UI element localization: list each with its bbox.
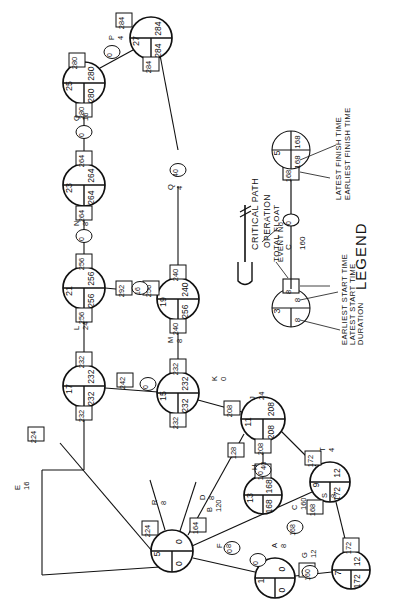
operation-duration-C: 160 <box>299 497 308 510</box>
legend-label-duration: DURATION <box>356 302 365 345</box>
duration-value: 0 <box>252 561 259 565</box>
duration-oval: 16 <box>132 282 148 295</box>
float-box: 172 <box>343 538 359 554</box>
operation-duration-P: 4 <box>116 36 125 40</box>
legend-operation-duration: 160 <box>298 237 307 250</box>
event-id-21: 21 <box>64 286 74 296</box>
earliest-7: 12 <box>353 556 363 566</box>
latest-17: 232 <box>87 391 97 405</box>
event-node-7[interactable]: 712172 <box>332 551 370 589</box>
operation-name-O: O <box>72 115 81 121</box>
operation-duration-T: 4 <box>327 448 336 452</box>
operation-name-T: T <box>318 447 327 452</box>
event-id-1: 1 <box>256 578 266 583</box>
operation-duration-S: 8 <box>329 494 338 498</box>
operation-name-S: S <box>320 493 329 498</box>
float-value: 208 <box>225 405 234 418</box>
duration-value: 0 <box>78 133 85 137</box>
operation-duration-N: 8 <box>81 222 90 226</box>
float-box: 172 <box>305 451 321 467</box>
latest-7: 172 <box>353 574 363 588</box>
event-node-5[interactable]: 500 <box>151 530 193 572</box>
float-box: 232 <box>170 359 186 375</box>
operation-name-G: G <box>300 552 309 558</box>
operation-name-R: R <box>150 500 159 505</box>
legend-float-val-left: 8 <box>284 290 293 294</box>
edge-5-up-c <box>60 443 152 551</box>
float-value: 232 <box>77 356 86 369</box>
event-node-19[interactable]: 19240256 <box>157 278 199 320</box>
float-value: 224 <box>29 431 38 444</box>
event-id-15: 15 <box>158 391 168 401</box>
float-box: 256 <box>76 254 92 270</box>
duration-oval: 0 <box>76 126 92 139</box>
legend-critical-arrow <box>238 262 252 285</box>
operation-duration-J: 24 <box>257 392 266 400</box>
latest-5: 0 <box>175 561 185 566</box>
edge-5-1 <box>193 558 255 572</box>
float-value: 232 <box>171 417 180 430</box>
legend-earliest-3: 8 <box>293 297 302 302</box>
edge-27-down <box>160 55 178 150</box>
legend-latest-3: 8 <box>293 317 302 322</box>
float-box: 224 <box>28 427 44 443</box>
float-box: 284 <box>116 13 132 29</box>
operation-duration-H: 40 <box>259 462 268 470</box>
float-value: 292 <box>117 285 126 298</box>
legend-heading: LEGEND <box>352 222 369 290</box>
float-value: 264 <box>77 155 86 168</box>
float-value: 224 <box>143 525 152 538</box>
operation-duration-F: 8 <box>224 544 233 548</box>
event-node-21[interactable]: 21256256 <box>63 267 105 309</box>
float-box: 168 <box>307 500 323 516</box>
operation-duration-L: 24 <box>81 322 90 330</box>
operation-duration-Q: 4 <box>175 186 184 190</box>
earliest-5: 0 <box>175 539 185 544</box>
float-box: 292 <box>116 281 132 297</box>
duration-value: 0 <box>78 237 85 241</box>
duration-value: 0 <box>226 549 233 553</box>
duration-oval: 0 <box>140 378 156 391</box>
float-box: 164 <box>190 518 206 534</box>
operation-duration-G: 12 <box>309 550 318 558</box>
earliest-19: 240 <box>181 282 191 296</box>
earliest-11: 208 <box>266 402 276 416</box>
float-value: 280 <box>70 57 79 70</box>
float-box: 208 <box>224 401 240 417</box>
latest-15: 232 <box>181 398 191 412</box>
float-value: 240 <box>171 323 180 336</box>
duration-value: 16 <box>134 287 141 295</box>
earliest-13: 168 <box>265 479 275 493</box>
event-node-27[interactable]: 27284284 <box>130 17 172 59</box>
float-value: 242 <box>118 377 127 390</box>
earliest-23: 264 <box>87 168 97 182</box>
event-node-17[interactable]: 17232232 <box>63 365 105 407</box>
event-id-17: 17 <box>64 384 74 394</box>
float-value: 284 <box>117 17 126 30</box>
earliest-27: 284 <box>154 21 164 35</box>
event-node-15[interactable]: 15232232 <box>157 372 199 414</box>
operation-name-E: E <box>13 485 22 490</box>
cpm-diagram-canvas: 2728428425280280232642642125625619240256… <box>0 0 394 606</box>
duration-oval: 0 <box>250 554 266 567</box>
duration-value: 0 <box>257 471 264 475</box>
earliest-25: 280 <box>87 66 97 80</box>
event-id-27: 27 <box>131 36 141 46</box>
network-graphics: 2728428425280280232642642125625619240256… <box>0 0 394 606</box>
operation-duration-K: 0 <box>219 377 228 381</box>
legend-oval-val: 0 <box>285 221 292 225</box>
event-id-19: 19 <box>158 297 168 307</box>
event-node-11[interactable]: 11208208 <box>241 397 285 441</box>
legend-operation-name: C <box>284 244 293 250</box>
operation-name-L: L <box>72 326 81 330</box>
event-id-13: 13 <box>245 493 255 503</box>
event-id-7: 7 <box>333 570 343 575</box>
event-node-13[interactable]: 13168168 <box>244 476 282 514</box>
operation-duration-R: 8 <box>159 501 168 505</box>
edge-left-to-5 <box>42 567 160 575</box>
event-id-5: 5 <box>152 551 162 556</box>
earliest-9: 12 <box>332 468 342 478</box>
event-node-23[interactable]: 23264264 <box>63 164 105 206</box>
float-box: 240 <box>170 319 186 335</box>
float-value: 256 <box>77 258 86 271</box>
